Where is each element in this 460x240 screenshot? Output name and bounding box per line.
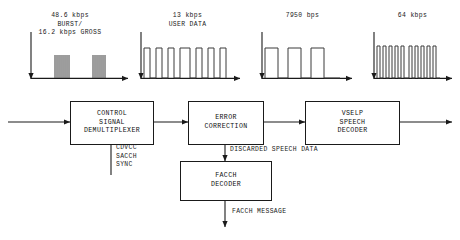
waveform-pcm-audio: [374, 32, 452, 79]
block-label-error-correction: ERROR CORRECTION: [189, 114, 263, 132]
flow-label-demux-outputs: CDVCC SACCH SYNC: [116, 144, 137, 170]
block-control-signal-demultiplexer[interactable]: CONTROL SIGNAL DEMULTIPLEXER: [70, 101, 154, 145]
waveform-burst: [31, 32, 128, 79]
diagram-canvas: 48.6 kbps BURST/ 16.2 kbps GROSS 13 kbps…: [0, 0, 460, 240]
waveform-label-pcm-audio: 64 kbps: [370, 12, 455, 21]
waveform-label-speech-rate: 7950 bps: [255, 12, 350, 21]
block-error-correction[interactable]: ERROR CORRECTION: [188, 101, 264, 145]
block-facch-decoder[interactable]: FACCH DECODER: [180, 161, 272, 201]
block-label-vselp-speech-decoder: VSELP SPEECH DECODER: [306, 110, 399, 136]
waveform-label-user-data: 13 kbps USER DATA: [140, 12, 235, 29]
waveform-speech-rate: [262, 32, 352, 79]
flow-label-facch-message: FACCH MESSAGE: [232, 208, 286, 217]
waveform-user-data: [141, 32, 240, 79]
waveform-label-burst: 48.6 kbps BURST/ 16.2 kbps GROSS: [20, 12, 120, 38]
block-vselp-speech-decoder[interactable]: VSELP SPEECH DECODER: [305, 101, 400, 145]
block-label-facch-decoder: FACCH DECODER: [181, 172, 271, 190]
flow-label-discarded-speech-data: DISCARDED SPEECH DATA: [230, 146, 318, 155]
block-label-control-signal-demultiplexer: CONTROL SIGNAL DEMULTIPLEXER: [71, 110, 153, 136]
